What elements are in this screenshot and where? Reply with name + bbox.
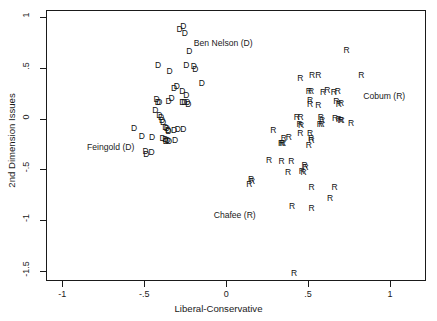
data-point-r: R xyxy=(300,168,306,177)
x-tick-label: .5 xyxy=(304,289,312,299)
data-point-d: D xyxy=(180,124,186,133)
data-point-r: R xyxy=(335,87,341,96)
y-tick-label-text: -.5 xyxy=(21,155,31,179)
data-point-d: D xyxy=(139,132,145,141)
point-annotation-label: Cobum (R) xyxy=(363,91,405,101)
data-point-r: R xyxy=(289,202,295,211)
data-point-d: D xyxy=(186,47,192,56)
data-point-r: R xyxy=(270,126,276,135)
data-point-d: D xyxy=(192,65,198,74)
y-tick-label-text: -1 xyxy=(21,206,31,230)
y-axis-title-wrap: 2nd Dimension Issues xyxy=(0,0,22,281)
point-annotation-label: Chafee (R) xyxy=(214,210,256,220)
data-point-r: R xyxy=(278,156,284,165)
data-point-d: D xyxy=(172,136,178,145)
data-point-r: R xyxy=(307,100,313,109)
data-point-d: D xyxy=(199,78,205,87)
x-tick-mark xyxy=(144,281,145,287)
x-tick-label: -1 xyxy=(58,289,66,299)
y-tick-label-text: -1.5 xyxy=(21,257,31,281)
y-axis-title: 2nd Dimension Issues xyxy=(6,93,17,187)
data-point-r: R xyxy=(297,128,303,137)
x-tick-mark xyxy=(390,281,391,287)
data-point-d: D xyxy=(165,97,171,106)
data-point-r: R xyxy=(324,86,330,95)
data-point-r: R xyxy=(315,100,321,109)
x-axis-title: Liberal-Conservative xyxy=(0,303,437,314)
data-point-r: R xyxy=(291,268,297,277)
plot-data-area: DDDDDDDDDDDDDDDDDDDDDDDDDDDDDDDDDDDDDDDD… xyxy=(46,10,426,281)
data-point-r: R xyxy=(288,157,294,166)
x-tick-mark xyxy=(62,281,63,287)
data-point-r: R xyxy=(315,71,321,80)
data-point-d: D xyxy=(185,100,191,109)
data-point-d: D xyxy=(167,67,173,76)
data-point-r: R xyxy=(286,132,292,141)
data-point-d: D xyxy=(155,61,161,70)
data-point-r: R xyxy=(327,194,333,203)
data-point-r: R xyxy=(280,139,286,148)
y-tick-label-text: .5 xyxy=(21,54,31,78)
scatter-plot-figure: 1.50-.5-1-1.5 -1-.50.51 DDDDDDDDDDDDDDDD… xyxy=(0,0,437,321)
data-point-r: R xyxy=(318,120,324,129)
data-point-r: R xyxy=(358,71,364,80)
x-tick-label: 0 xyxy=(224,289,229,299)
y-tick-label-text: 1 xyxy=(21,3,31,27)
data-point-r: R xyxy=(338,99,344,108)
y-tick-label-text: 0 xyxy=(21,105,31,129)
point-annotation-label: Ben Nelson (D) xyxy=(194,38,253,48)
data-point-r: R xyxy=(332,183,338,192)
data-point-r: R xyxy=(266,156,272,165)
data-point-d: D xyxy=(131,124,137,133)
data-point-r: R xyxy=(297,74,303,83)
data-point-d: D xyxy=(149,148,155,157)
point-annotation-label: Feingold (D) xyxy=(87,142,134,152)
data-point-r: R xyxy=(343,46,349,55)
x-tick-label: 1 xyxy=(387,289,392,299)
data-point-r: R xyxy=(306,141,312,150)
data-point-d: D xyxy=(149,133,155,142)
x-tick-mark xyxy=(308,281,309,287)
data-point-r: R xyxy=(339,116,345,125)
data-point-r: R xyxy=(246,180,252,189)
x-tick-mark xyxy=(226,281,227,287)
data-point-d: D xyxy=(183,61,189,70)
data-point-r: R xyxy=(348,119,354,128)
data-point-r: R xyxy=(285,168,291,177)
data-point-d: D xyxy=(182,29,188,38)
data-point-r: R xyxy=(309,183,315,192)
data-point-r: R xyxy=(309,203,315,212)
x-tick-label: -.5 xyxy=(139,289,150,299)
